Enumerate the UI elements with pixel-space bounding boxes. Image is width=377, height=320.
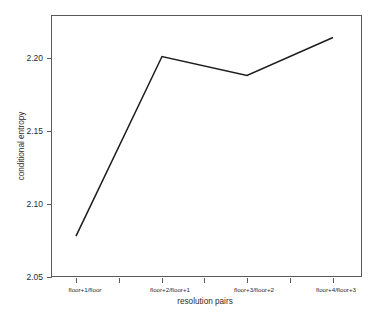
y-tick-label-1: 2.10	[26, 199, 43, 209]
x-tick-label-0: floor+1/floor	[69, 286, 102, 293]
y-tick-label-2: 2.15	[26, 126, 43, 136]
line-chart: 2.05 2.10 2.15 2.20 floor+1/floor floor+…	[0, 0, 377, 320]
chart-container: 2.05 2.10 2.15 2.20 floor+1/floor floor+…	[0, 0, 377, 320]
y-tick-label-3: 2.20	[26, 53, 43, 63]
x-tick-label-3: floor+4/floor+3	[316, 286, 356, 293]
x-axis-title: resolution pairs	[177, 297, 233, 306]
y-tick-label-0: 2.05	[26, 272, 43, 282]
y-axis-ticks	[47, 58, 52, 277]
x-axis-tick-labels: floor+1/floor floor+2/floor+1 floor+3/fl…	[69, 286, 357, 293]
plot-background	[51, 15, 362, 277]
x-tick-label-1: floor+2/floor+1	[150, 286, 190, 293]
y-axis-title: conditional entropy	[17, 111, 26, 181]
y-axis-tick-labels: 2.05 2.10 2.15 2.20	[26, 53, 43, 282]
x-axis-ticks	[77, 278, 334, 283]
x-tick-label-2: floor+3/floor+2	[234, 286, 274, 293]
